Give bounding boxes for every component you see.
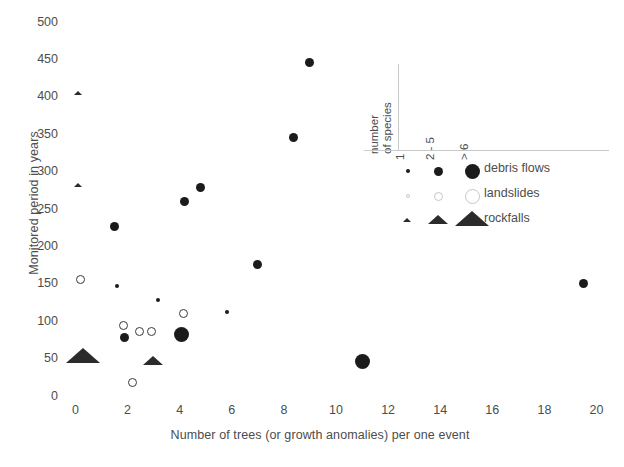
data-point-debris-flows	[196, 183, 205, 192]
data-point-landslides	[179, 309, 188, 318]
legend-marker-landslides-1	[391, 183, 425, 209]
y-tick-350: 350	[18, 128, 58, 140]
y-tick-100: 100	[18, 315, 58, 327]
data-point-debris-flows	[225, 310, 229, 314]
y-tick-400: 400	[18, 90, 58, 102]
y-tick-50: 50	[18, 352, 58, 364]
data-point-debris-flows	[156, 298, 160, 302]
data-point-debris-flows	[579, 279, 588, 288]
x-tick-6: 6	[217, 404, 247, 416]
x-axis-label: Number of trees (or growth anomalies) pe…	[60, 428, 580, 442]
legend-glyph	[434, 192, 443, 201]
data-point-landslides	[128, 378, 137, 387]
legend-glyph	[428, 215, 448, 224]
legend-row-debris-flows: debris flows	[362, 158, 612, 184]
data-point-landslides	[76, 275, 85, 284]
data-point-landslides	[147, 327, 156, 336]
legend-glyph	[465, 189, 480, 204]
data-point-rockfalls	[143, 356, 163, 365]
data-point-rockfalls	[74, 183, 82, 187]
legend-header: number of species 1 2 - 5 > 6	[362, 64, 482, 150]
data-point-landslides	[119, 321, 128, 330]
x-tick-4: 4	[165, 404, 195, 416]
legend-marker-rockfalls-1	[391, 208, 425, 234]
legend-glyph	[403, 218, 411, 222]
y-tick-200: 200	[18, 240, 58, 252]
y-tick-150: 150	[18, 277, 58, 289]
legend-glyph	[406, 194, 410, 198]
data-point-debris-flows	[305, 58, 314, 67]
data-point-landslides	[135, 327, 144, 336]
data-point-rockfalls	[74, 91, 82, 95]
legend-glyph	[465, 164, 480, 179]
legend-marker-rockfalls-2-5	[421, 208, 455, 234]
legend-marker-debris-flows-1	[391, 158, 425, 184]
y-tick-500: 500	[18, 16, 58, 28]
chart-legend: number of species 1 2 - 5 > 6 debris flo…	[362, 64, 612, 228]
x-tick-10: 10	[321, 404, 351, 416]
x-tick-2: 2	[113, 404, 143, 416]
legend-marker-landslides-2-5	[421, 183, 455, 209]
y-tick-0: 0	[18, 390, 58, 402]
x-tick-16: 16	[477, 404, 507, 416]
legend-marker-debris-flows-2-5	[421, 158, 455, 184]
x-tick-20: 20	[582, 404, 612, 416]
legend-label-debris-flows: debris flows	[484, 161, 550, 175]
legend-horizontal-rule	[364, 150, 609, 151]
legend-column-head-2: 2 - 5	[424, 137, 436, 160]
legend-title: number of species	[368, 68, 394, 154]
data-point-debris-flows	[120, 333, 129, 342]
x-tick-8: 8	[269, 404, 299, 416]
y-tick-250: 250	[18, 203, 58, 215]
data-point-debris-flows	[355, 354, 370, 369]
data-point-rockfalls	[66, 348, 100, 363]
legend-row-landslides: landslides	[362, 183, 612, 209]
scatter-chart-figure: Monitored period in years Number of tree…	[0, 0, 624, 467]
data-point-debris-flows	[180, 197, 189, 206]
legend-row-rockfalls: rockfalls	[362, 208, 612, 234]
x-tick-18: 18	[529, 404, 559, 416]
legend-title-line-1: number	[368, 115, 380, 154]
legend-glyph	[434, 167, 443, 176]
legend-label-rockfalls: rockfalls	[484, 211, 530, 225]
x-tick-14: 14	[425, 404, 455, 416]
data-point-debris-flows	[110, 222, 119, 231]
data-point-debris-flows	[174, 327, 189, 342]
y-tick-300: 300	[18, 165, 58, 177]
x-tick-0: 0	[61, 404, 91, 416]
data-point-debris-flows	[115, 284, 119, 288]
data-point-debris-flows	[289, 133, 298, 142]
y-tick-450: 450	[18, 53, 58, 65]
legend-vertical-rule	[398, 64, 399, 150]
legend-label-landslides: landslides	[484, 186, 540, 200]
legend-glyph	[406, 169, 410, 173]
data-point-debris-flows	[253, 260, 262, 269]
x-tick-12: 12	[373, 404, 403, 416]
legend-title-line-2: of species	[381, 102, 393, 154]
